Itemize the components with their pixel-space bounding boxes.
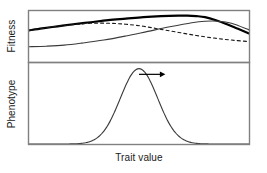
x-axis-label: Trait value	[28, 152, 250, 163]
y-axis-label-phenotype: Phenotype	[0, 63, 22, 145]
y-axis-label-fitness-text: Fitness	[6, 20, 17, 53]
plot-canvas	[0, 0, 267, 173]
figure-container: Fitness Phenotype Trait value	[0, 0, 267, 173]
y-axis-label-phenotype-text: Phenotype	[6, 80, 17, 129]
y-axis-label-fitness: Fitness	[0, 10, 22, 62]
